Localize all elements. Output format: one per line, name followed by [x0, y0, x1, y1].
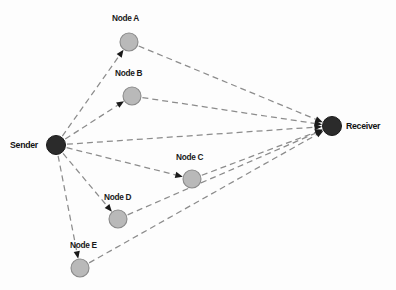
label-receiver: Receiver — [346, 120, 380, 131]
edge-sender-to-receiver — [67, 127, 320, 144]
node-node-b[interactable] — [123, 87, 141, 105]
label-sender: Sender — [10, 139, 38, 150]
arrowhead-sender-to-node-a — [117, 50, 124, 58]
node-node-d[interactable] — [109, 210, 127, 228]
network-diagram: SenderNode ANode BNode CNode DNode ERece… — [0, 0, 396, 290]
edge-node-a-to-receiver — [139, 46, 321, 121]
label-node-d: Node D — [104, 192, 131, 202]
node-node-c[interactable] — [183, 170, 201, 188]
label-node-b: Node B — [115, 68, 142, 78]
edge-sender-to-node-b — [65, 102, 122, 139]
node-node-a[interactable] — [120, 33, 138, 51]
edge-sender-to-node-c — [67, 148, 181, 177]
label-node-e: Node E — [70, 240, 97, 250]
edge-node-c-to-receiver — [202, 130, 321, 175]
network-graph-canvas — [0, 0, 396, 290]
arrowhead-sender-to-node-b — [116, 101, 124, 108]
edge-node-d-to-receiver — [128, 131, 321, 215]
node-sender[interactable] — [47, 136, 66, 155]
label-node-c: Node C — [176, 152, 203, 162]
node-node-e[interactable] — [71, 259, 89, 277]
label-node-a: Node A — [112, 13, 139, 23]
edge-node-b-to-receiver — [142, 98, 320, 125]
node-receiver[interactable] — [323, 117, 342, 136]
arrowhead-sender-to-node-d — [105, 204, 112, 212]
edge-sender-to-node-a — [62, 51, 122, 136]
arrowhead-sender-to-node-e — [74, 251, 80, 259]
arrowhead-sender-to-node-c — [175, 172, 183, 178]
